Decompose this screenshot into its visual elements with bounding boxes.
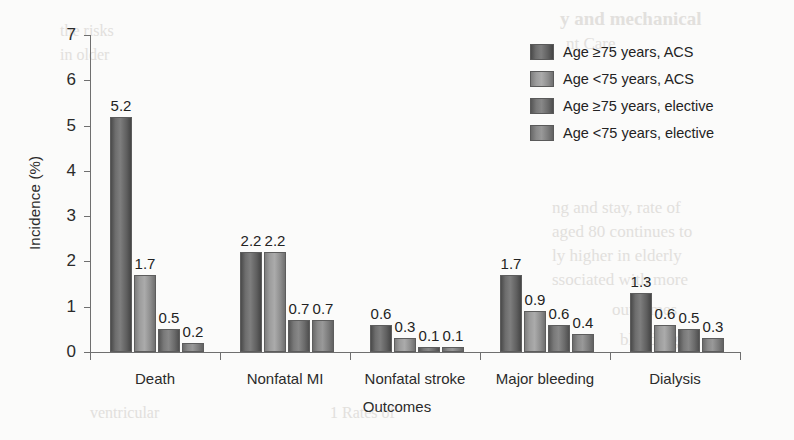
bar[interactable]	[442, 347, 464, 352]
legend-swatch-icon	[530, 44, 554, 60]
bar-value-label: 0.7	[306, 300, 340, 317]
chart-legend: Age ≥75 years, ACS Age <75 years, ACS Ag…	[530, 40, 714, 148]
x-axis-tick	[610, 352, 611, 360]
y-axis-tick-label: 7	[50, 26, 76, 43]
y-axis-tick-label: 6	[50, 71, 76, 88]
legend-item[interactable]: Age <75 years, ACS	[530, 67, 714, 91]
x-axis-tick	[90, 352, 91, 360]
x-axis-category-label: Nonfatal MI	[220, 370, 350, 387]
legend-item[interactable]: Age ≥75 years, elective	[530, 94, 714, 118]
y-axis-line	[90, 35, 91, 352]
bar[interactable]	[572, 334, 594, 352]
bar-value-label: 0.3	[696, 318, 730, 335]
legend-item[interactable]: Age ≥75 years, ACS	[530, 40, 714, 64]
bar-value-label: 0.2	[176, 323, 210, 340]
bar-value-label: 1.3	[624, 273, 658, 290]
legend-item[interactable]: Age <75 years, elective	[530, 121, 714, 145]
bar[interactable]	[312, 320, 334, 352]
y-axis-tick-label: 3	[50, 207, 76, 224]
x-axis-tick	[220, 352, 221, 360]
legend-item-label: Age <75 years, elective	[563, 125, 714, 141]
bar-value-label: 2.2	[258, 232, 292, 249]
legend-swatch-icon	[530, 98, 554, 114]
x-axis-category-label: Death	[90, 370, 220, 387]
bar-value-label: 1.7	[494, 255, 528, 272]
legend-item-label: Age ≥75 years, elective	[563, 98, 714, 114]
bar[interactable]	[182, 343, 204, 352]
x-axis-category-label: Nonfatal stroke	[350, 370, 480, 387]
x-axis-tick	[740, 352, 741, 360]
bar[interactable]	[288, 320, 310, 352]
y-axis-tick-label: 1	[50, 298, 76, 315]
x-axis-tick	[350, 352, 351, 360]
bar[interactable]	[110, 117, 132, 352]
y-axis-tick-label: 5	[50, 117, 76, 134]
bar[interactable]	[418, 347, 440, 352]
y-axis-tick-label: 4	[50, 162, 76, 179]
x-axis-tick	[480, 352, 481, 360]
bar-value-label: 5.2	[104, 97, 138, 114]
y-axis-tick-label: 0	[50, 343, 76, 360]
x-axis-category-label: Dialysis	[610, 370, 740, 387]
x-axis-line	[90, 352, 740, 353]
bar[interactable]	[240, 252, 262, 352]
bar[interactable]	[630, 293, 652, 352]
bar-value-label: 1.7	[128, 255, 162, 272]
y-axis-tick-label: 2	[50, 252, 76, 269]
legend-item-label: Age <75 years, ACS	[563, 71, 694, 87]
legend-item-label: Age ≥75 years, ACS	[563, 44, 693, 60]
y-axis-title: Incidence (%)	[26, 156, 43, 250]
bar-chart: Incidence (%) 01234567 5.21.70.50.22.22.…	[0, 0, 794, 440]
legend-swatch-icon	[530, 125, 554, 141]
bar-value-label: 0.4	[566, 314, 600, 331]
x-axis-category-label: Major bleeding	[480, 370, 610, 387]
bar[interactable]	[654, 325, 676, 352]
legend-swatch-icon	[530, 71, 554, 87]
bar[interactable]	[500, 275, 522, 352]
bar-value-label: 0.1	[436, 327, 470, 344]
x-axis-title: Outcomes	[0, 398, 794, 415]
bar[interactable]	[702, 338, 724, 352]
